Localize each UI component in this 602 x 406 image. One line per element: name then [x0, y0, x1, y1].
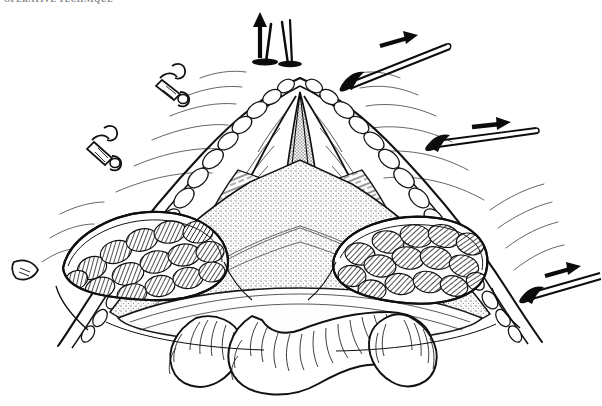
illustration-canvas	[0, 0, 602, 406]
surgical-illustration-figure: OPERATIVE TECHNIQUE	[0, 0, 602, 406]
